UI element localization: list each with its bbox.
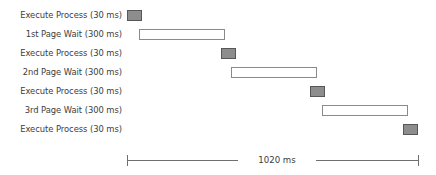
- timeline-bar-execute: [310, 86, 325, 97]
- timeline-bar-execute: [403, 124, 418, 135]
- timeline-bar-execute: [127, 10, 142, 21]
- timeline-bar-execute: [221, 48, 236, 59]
- total-duration-ruler: 1020 ms: [0, 152, 436, 172]
- timeline-row: 3rd Page Wait (300 ms): [0, 101, 436, 120]
- timeline-bar-wait: [231, 67, 317, 78]
- timeline-bar-wait: [139, 29, 225, 40]
- timeline-row: Execute Process (30 ms): [0, 6, 436, 25]
- timeline-row: 2nd Page Wait (300 ms): [0, 63, 436, 82]
- timeline-row: Execute Process (30 ms): [0, 44, 436, 63]
- timeline-row-label: 2nd Page Wait (300 ms): [0, 63, 122, 82]
- timeline-row-label: 1st Page Wait (300 ms): [0, 25, 122, 44]
- timeline-row: 1st Page Wait (300 ms): [0, 25, 436, 44]
- timeline-row-label: Execute Process (30 ms): [0, 6, 122, 25]
- timeline-row-label: 3rd Page Wait (300 ms): [0, 101, 122, 120]
- timeline-row: Execute Process (30 ms): [0, 120, 436, 139]
- timeline-row-label: Execute Process (30 ms): [0, 44, 122, 63]
- timeline-row-label: Execute Process (30 ms): [0, 120, 122, 139]
- timeline-row: Execute Process (30 ms): [0, 82, 436, 101]
- ruler-duration-label: 1020 ms: [238, 153, 316, 168]
- ruler-end-tick: [418, 155, 419, 166]
- timeline-bar-wait: [322, 105, 408, 116]
- timing-diagram: Execute Process (30 ms) 1st Page Wait (3…: [0, 0, 436, 175]
- timeline-row-label: Execute Process (30 ms): [0, 82, 122, 101]
